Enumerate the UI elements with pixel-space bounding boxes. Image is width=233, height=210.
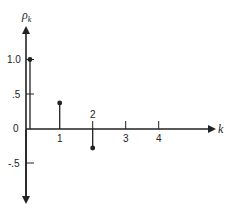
autocorrelation-stem-chart: 1.0 .5 0 -.5 1 2 3 4 ρk k xyxy=(0,0,233,210)
x-axis-label: k xyxy=(218,122,224,136)
x-tick-label: 2 xyxy=(90,109,96,120)
y-tick-label: .5 xyxy=(12,89,21,100)
x-ticks xyxy=(93,121,159,129)
x-tick-label: 4 xyxy=(156,133,162,144)
y-axis-label: ρk xyxy=(21,8,32,24)
x-tick-label: 3 xyxy=(123,133,129,144)
y-tick-label: 0 xyxy=(13,123,19,134)
y-tick-label: 1.0 xyxy=(7,54,21,65)
y-tick-label: -.5 xyxy=(8,158,20,169)
x-tick-label: 1 xyxy=(57,133,63,144)
